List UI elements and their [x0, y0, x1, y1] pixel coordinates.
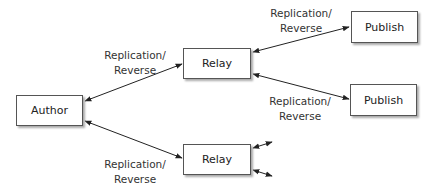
node-publish-bottom: Publish — [350, 84, 417, 116]
node-author-label: Author — [31, 104, 68, 117]
node-relay-top: Relay — [183, 48, 251, 79]
edge-label-line2: Reverse — [260, 109, 340, 124]
edge-label-line2: Reverse — [95, 63, 175, 78]
node-author: Author — [16, 95, 83, 126]
node-relay-top-label: Relay — [202, 57, 232, 70]
node-publish-top: Publish — [351, 11, 418, 43]
node-publish-bottom-label: Publish — [364, 94, 403, 107]
arrow-relay-bottom-out-1 — [253, 142, 272, 148]
edge-label-line2: Reverse — [261, 21, 341, 36]
edge-label-line1: Replication/ — [95, 157, 175, 172]
node-relay-bottom: Relay — [183, 144, 251, 175]
edge-label-line1: Replication/ — [260, 94, 340, 109]
replication-diagram: Author Relay Relay Publish Publish Repli… — [0, 0, 433, 190]
edge-label-line2: Reverse — [95, 172, 175, 187]
edge-label-relay-publish-bottom: Replication/ Reverse — [260, 94, 340, 124]
edge-label-author-relay-bottom: Replication/ Reverse — [95, 157, 175, 187]
node-publish-top-label: Publish — [365, 21, 404, 34]
node-relay-bottom-label: Relay — [202, 153, 232, 166]
edge-label-author-relay-top: Replication/ Reverse — [95, 48, 175, 78]
arrow-author-relay-bottom — [85, 121, 182, 158]
edge-label-line1: Replication/ — [261, 6, 341, 21]
arrow-relay-bottom-out-2 — [253, 170, 272, 176]
edge-label-relay-publish-top: Replication/ Reverse — [261, 6, 341, 36]
edge-label-line1: Replication/ — [95, 48, 175, 63]
